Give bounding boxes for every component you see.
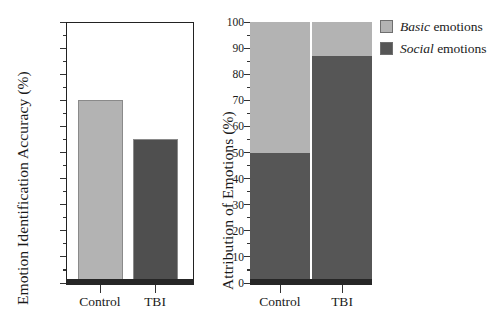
legend-label-basic-emphasis: Basic [400,19,430,34]
x-tick [100,285,101,293]
y-tick-label: 100 [227,16,244,28]
y-tick-label: 80 [233,68,245,80]
chart-panel-emotion-identification: Emotion Identification Accuracy (%) 1009… [0,0,205,330]
x-tick-label-tbi: TBI [331,294,353,310]
stack-social-tbi [312,56,372,283]
chart-panel-attribution: Attribution of Emotions (%) 100908070605… [205,0,502,330]
y-tick-label: 60 [233,120,245,132]
left-baseline [66,279,194,285]
left-y-axis-title: Emotion Identification Accuracy (%) [14,71,32,305]
legend-label-basic: Basic emotions [400,20,483,34]
y-tick-label: 10 [233,251,245,263]
x-tick [342,285,343,293]
stack-basic-tbi [312,22,372,56]
stack-basic-control [250,22,310,153]
y-tick-label: 50 [233,147,245,159]
x-tick [280,285,281,293]
x-tick [155,285,156,293]
figure-root: Emotion Identification Accuracy (%) 1009… [0,0,502,330]
right-baseline [250,279,372,285]
y-tick-label: 90 [233,42,245,54]
legend-label-social-rest: emotions [434,41,487,56]
stack-social-control [250,153,310,284]
legend-swatch-basic-icon [380,20,393,33]
legend-item-basic: Basic emotions [380,20,487,34]
x-tick-label-control: Control [259,294,300,310]
x-tick-label-control: Control [79,294,120,310]
y-tick-label: 20 [233,225,245,237]
bar-control [78,100,123,283]
legend: Basic emotions Social emotions [380,20,487,55]
bar-tbi [133,139,178,283]
x-tick-label-tbi: TBI [144,294,166,310]
y-tick-label: 40 [233,173,245,185]
y-tick-label: 70 [233,94,245,106]
legend-label-social-emphasis: Social [400,41,434,56]
legend-label-basic-rest: emotions [430,19,483,34]
legend-swatch-social-icon [380,42,393,55]
legend-label-social: Social emotions [400,42,487,56]
legend-item-social: Social emotions [380,42,487,56]
y-tick-label: 30 [233,199,245,211]
